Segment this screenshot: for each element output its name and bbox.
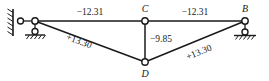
force-label-CD: −9.85 — [150, 34, 172, 44]
wall-hatch-icon — [8, 23, 14, 27]
force-label-CB: −12.31 — [182, 7, 209, 17]
joint-D — [142, 59, 148, 65]
joint-B — [242, 18, 248, 24]
force-label-AD: +13.30 — [65, 32, 94, 51]
left-wall-support — [8, 9, 14, 36]
force-label-AC: −12.31 — [77, 7, 104, 17]
right-roller-wheel-icon — [242, 29, 248, 35]
node-label-D: D — [140, 68, 149, 79]
joint-C — [142, 18, 148, 24]
wall-hatch-icon — [8, 9, 14, 13]
joint-A — [32, 18, 38, 24]
wall-hatch-icon — [8, 32, 14, 36]
left-wall-pin-icon — [18, 18, 24, 24]
wall-hatch-icon — [8, 27, 14, 31]
node-label-B: B — [242, 3, 248, 14]
node-label-C: C — [142, 3, 149, 14]
wall-hatch-icon — [8, 14, 14, 18]
left-roller-support — [25, 24, 46, 39]
truss-force-diagram: −12.31 −12.31 −9.85 +13.30 +13.30 C B D — [0, 0, 269, 81]
wall-hatch-icon — [8, 18, 14, 22]
right-roller-support — [234, 24, 256, 40]
force-label-DB: +13.30 — [185, 42, 214, 61]
left-roller-wheel-icon — [32, 29, 38, 35]
truss-diagram-canvas: −12.31 −12.31 −9.85 +13.30 +13.30 C B D — [0, 0, 269, 81]
